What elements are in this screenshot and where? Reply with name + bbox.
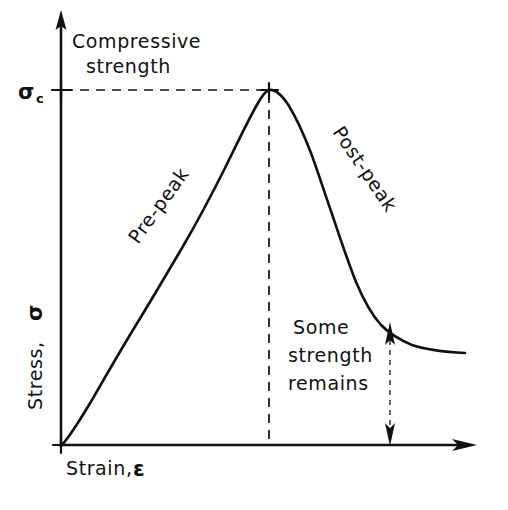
residual-strength-arrow-group: [385, 322, 395, 446]
x-axis-symbol: ε: [133, 457, 145, 481]
residual-strength-label-line1: Some: [293, 316, 349, 338]
y-axis-title: Stress,: [24, 341, 46, 410]
sigma-c-label: σ: [18, 80, 34, 104]
figure-canvas: Compressive strength σ c Pre-peak Post-p…: [0, 0, 508, 510]
y-axis-symbol: σ: [23, 305, 47, 321]
guide-lines-group: [52, 82, 278, 443]
compressive-strength-label-line2: strength: [86, 55, 171, 77]
residual-strength-label-line3: remains: [288, 372, 369, 394]
sigma-c-subscript: c: [36, 91, 44, 106]
pre-peak-label: Pre-peak: [123, 163, 193, 247]
labels-group: Compressive strength σ c Pre-peak Post-p…: [18, 30, 402, 481]
stress-strain-curve-group: [62, 90, 465, 445]
compressive-strength-label-line1: Compressive: [72, 30, 201, 52]
post-peak-label: Post-peak: [329, 122, 402, 216]
stress-strain-curve: [62, 90, 465, 445]
x-axis-title: Strain,: [66, 457, 133, 479]
stress-strain-figure: Compressive strength σ c Pre-peak Post-p…: [0, 0, 508, 510]
residual-strength-label-line2: strength: [288, 344, 373, 366]
residual-arrow-down-icon: [385, 423, 395, 446]
